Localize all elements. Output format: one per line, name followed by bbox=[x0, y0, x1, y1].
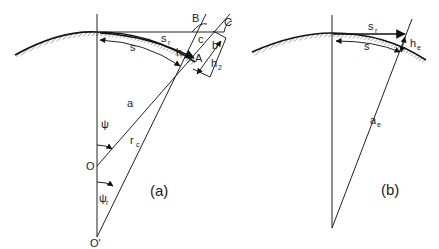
label-sr-b: s bbox=[368, 20, 374, 32]
label-s: s bbox=[130, 41, 136, 53]
angle-psi-r-arc bbox=[97, 182, 113, 186]
label-ae-b: a bbox=[370, 114, 377, 126]
label-psi: ψ bbox=[101, 118, 109, 130]
label-h: h bbox=[176, 46, 182, 58]
label-h2: h bbox=[211, 57, 217, 69]
label-A: A bbox=[195, 52, 203, 64]
caption-b: (b) bbox=[381, 181, 399, 198]
label-sr: s bbox=[161, 32, 167, 44]
label-O-prime: O' bbox=[90, 237, 101, 249]
angle-psi-arc bbox=[97, 145, 112, 149]
label-psi-r-sub: r bbox=[106, 199, 109, 206]
earth-surface-hatch-b bbox=[252, 33, 426, 64]
label-C: C bbox=[224, 16, 232, 28]
label-c: c bbox=[198, 33, 204, 45]
line-rc bbox=[97, 14, 206, 237]
label-sr-sub: r bbox=[168, 39, 171, 46]
earth-surface-hatch bbox=[15, 32, 195, 66]
label-sr-sub-b: r bbox=[375, 27, 378, 34]
label-rc: r bbox=[130, 134, 134, 146]
label-O: O bbox=[86, 160, 95, 172]
label-ae-sub-b: e bbox=[377, 121, 381, 128]
label-he-b: h bbox=[410, 37, 416, 49]
caption-a: (a) bbox=[150, 182, 168, 199]
panel-a: B C c b s r s h A h 2 a ψ O r c ψ r O' (… bbox=[15, 12, 232, 249]
label-b: b bbox=[212, 39, 218, 51]
label-s-b: s bbox=[364, 40, 370, 52]
label-he-sub-b: e bbox=[417, 44, 421, 51]
diagram-canvas: B C c b s r s h A h 2 a ψ O r c ψ r O' (… bbox=[0, 0, 439, 249]
panel-b: s r s h e a e (b) bbox=[252, 15, 426, 228]
label-a: a bbox=[127, 97, 134, 109]
label-rc-sub: c bbox=[136, 141, 140, 148]
label-h2-sub: 2 bbox=[218, 64, 222, 71]
label-B: B bbox=[192, 12, 199, 24]
